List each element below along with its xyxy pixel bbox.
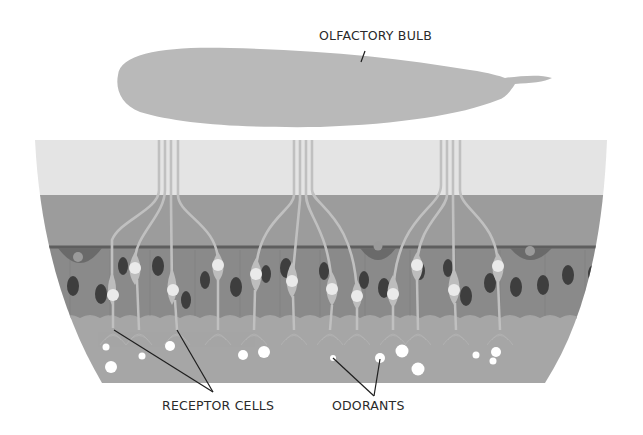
mucus-layer [0, 315, 643, 400]
olfactory-bulb-shape [117, 48, 552, 128]
olfactory-bulb-label: OLFACTORY BULB [319, 28, 432, 43]
receptor-cells-label: RECEPTOR CELLS [162, 398, 274, 413]
odorants-label: ODORANTS [332, 398, 405, 413]
top-band [0, 140, 643, 195]
tissue-section [0, 118, 643, 400]
olfactory-diagram [0, 0, 643, 435]
